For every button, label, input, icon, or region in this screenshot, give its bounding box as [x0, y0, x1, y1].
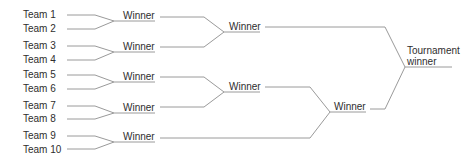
bracket-connector: [370, 67, 405, 109]
tournament-winner-line2: winner: [407, 56, 460, 67]
bracket-connector: [160, 32, 224, 47]
tournament-winner-label: Tournament winner: [407, 45, 460, 67]
round1-winner-label: Winner: [123, 41, 155, 52]
team-label: Team 1: [23, 9, 56, 20]
team-label: Team 9: [23, 130, 56, 141]
bracket-connector: [67, 82, 114, 89]
round1-winner-label: Winner: [123, 131, 155, 142]
round1-winner-label: Winner: [123, 10, 155, 21]
round2-winner-label: Winner: [229, 81, 261, 92]
team-label: Team 4: [23, 54, 56, 65]
team-label: Team 6: [23, 83, 56, 94]
team-label: Team 3: [23, 40, 56, 51]
round2-winner-label: Winner: [229, 21, 261, 32]
team-label: Team 10: [23, 144, 61, 155]
bracket-connector: [67, 113, 114, 119]
round3-winner-label: Winner: [334, 101, 366, 112]
bracket-connector: [67, 52, 114, 60]
team-label: Team 5: [23, 69, 56, 80]
bracket-connector: [67, 142, 114, 149]
bracket-connector: [160, 112, 330, 138]
team-label: Team 8: [23, 113, 56, 124]
tournament-winner-line1: Tournament: [407, 45, 460, 56]
tournament-bracket-diagram: Team 1 Team 2 Team 3 Team 4 Team 5 Team …: [0, 0, 476, 160]
team-label: Team 7: [23, 100, 56, 111]
round1-winner-label: Winner: [123, 102, 155, 113]
bracket-connector: [160, 92, 224, 107]
round1-winner-label: Winner: [123, 71, 155, 82]
bracket-connector: [67, 21, 114, 29]
team-label: Team 2: [23, 23, 56, 34]
